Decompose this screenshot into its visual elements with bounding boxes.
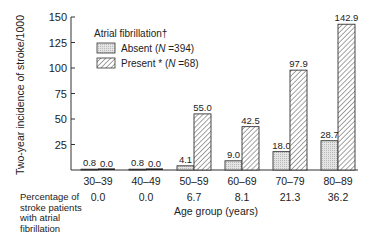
x-axis-label: Age group (years) (174, 205, 258, 217)
x-tick-label: 40–49 (131, 175, 160, 187)
bar-value-label: 0.0 (148, 158, 161, 169)
percentage-row-label: Percentage of (20, 191, 80, 202)
bar-absent (225, 161, 242, 170)
chart-svg: 255075100125150Two-year incidence of str… (0, 0, 369, 236)
bar-absent (81, 169, 98, 170)
legend-title: Atrial fibrillation† (94, 28, 167, 39)
bar-absent (321, 141, 338, 170)
bar-value-label: 0.8 (83, 157, 96, 168)
percentage-row-label: with atrial (19, 212, 60, 223)
bar-absent (273, 152, 290, 170)
bar-value-label: 97.9 (289, 58, 308, 69)
bar-absent (129, 169, 146, 170)
x-tick-label: 60–69 (227, 175, 256, 187)
bar-present (194, 114, 211, 170)
bar-value-label: 9.0 (227, 149, 240, 160)
y-tick-label: 25 (55, 139, 67, 151)
percentage-value: 8.1 (235, 191, 250, 203)
bar-value-label: 142.9 (335, 12, 359, 23)
bar-present (338, 24, 355, 170)
percentage-row-label: stroke patients (20, 202, 82, 213)
x-tick-label: 50–59 (179, 175, 208, 187)
percentage-row-label: fibrillation (20, 223, 60, 234)
x-tick-label: 80–89 (323, 175, 352, 187)
bar-value-label: 4.1 (179, 154, 192, 165)
y-tick-label: 50 (55, 113, 67, 125)
legend-label-present: Present * (N =68) (121, 58, 199, 69)
bar-value-label: 55.0 (193, 102, 212, 113)
percentage-value: 6.7 (187, 191, 202, 203)
bar-value-label: 42.5 (241, 115, 260, 126)
bar-present (242, 127, 259, 170)
y-tick-label: 100 (49, 62, 67, 74)
percentage-value: 0.0 (91, 191, 106, 203)
stroke-incidence-chart: 255075100125150Two-year incidence of str… (0, 0, 369, 236)
bar-value-label: 0.0 (100, 158, 113, 169)
percentage-value: 0.0 (139, 191, 154, 203)
bar-value-label: 28.7 (320, 129, 339, 140)
percentage-value: 21.3 (280, 191, 301, 203)
x-tick-label: 30–39 (83, 175, 112, 187)
y-axis-label: Two-year incidence of stroke/1000 (14, 15, 26, 175)
legend-swatch-present (97, 58, 115, 68)
y-tick-label: 150 (49, 11, 67, 23)
y-tick-label: 75 (55, 88, 67, 100)
legend-swatch-absent (97, 43, 115, 53)
bar-present (290, 70, 307, 170)
legend-label-absent: Absent (N =394) (121, 43, 194, 54)
bar-value-label: 18.0 (272, 140, 291, 151)
bar-absent (177, 166, 194, 170)
bar-value-label: 0.8 (131, 157, 144, 168)
percentage-value: 36.2 (328, 191, 349, 203)
x-tick-label: 70–79 (275, 175, 304, 187)
y-tick-label: 125 (49, 37, 67, 49)
